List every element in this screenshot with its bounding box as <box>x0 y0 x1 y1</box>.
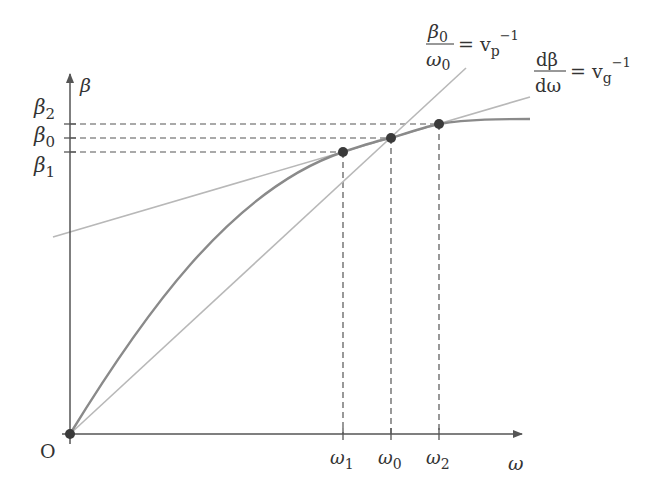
y-tick-labels: β2 β0 β1 <box>33 95 55 181</box>
point-omega0 <box>386 133 396 143</box>
group-rhs: = vg−1 <box>570 55 631 86</box>
phase-velocity-annotation: β0 ω0 = vp−1 <box>426 20 519 73</box>
origin-point <box>65 429 75 439</box>
tick-omega0: ω0 <box>378 447 402 472</box>
x-tick-labels: ω1 ω0 ω2 <box>330 447 450 472</box>
phase-velocity-line <box>70 68 466 434</box>
y-axis-label: β <box>79 74 91 96</box>
dashed-guides <box>70 124 439 434</box>
group-numerator: dβ <box>536 49 558 70</box>
group-denominator: dω <box>535 75 561 96</box>
ticks <box>64 124 439 440</box>
phase-denominator: ω0 <box>426 48 450 73</box>
points <box>65 119 444 439</box>
dispersion-diagram: β ω O β2 β0 β1 ω1 ω0 ω2 β0 ω0 = vp−1 dβ … <box>0 0 659 491</box>
tick-beta1: β1 <box>33 153 55 181</box>
point-omega2 <box>434 119 444 129</box>
point-omega1 <box>338 147 348 157</box>
tick-omega1: ω1 <box>330 447 354 472</box>
phase-numerator: β0 <box>427 20 448 45</box>
tick-beta0: β0 <box>33 123 55 151</box>
phase-rhs: = vp−1 <box>458 28 519 59</box>
tick-omega2: ω2 <box>426 447 450 472</box>
group-velocity-annotation: dβ dω = vg−1 <box>534 49 631 96</box>
x-axis-label: ω <box>508 452 524 474</box>
dispersion-curve <box>70 119 530 434</box>
tick-beta2: β2 <box>33 95 55 123</box>
group-velocity-tangent <box>53 97 530 237</box>
origin-label: O <box>40 440 56 462</box>
